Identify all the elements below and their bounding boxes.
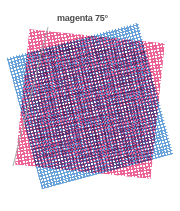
magenta-halftone-screen	[15, 29, 164, 178]
magenta-angle-label: magenta 75°	[57, 13, 108, 23]
halftone-screen-angle-figure: magenta 75°	[0, 0, 180, 211]
